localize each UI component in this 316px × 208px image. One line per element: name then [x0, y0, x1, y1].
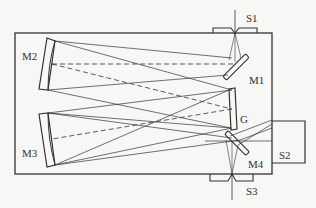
spectrometer-diagram: S1 M1 M2 M3 G M4 S2 S3: [0, 0, 316, 208]
ray-paths: [48, 41, 272, 165]
m1-label: M1: [249, 74, 264, 86]
g-label: G: [240, 113, 248, 125]
m4-label: M4: [248, 158, 264, 170]
s3-label: S3: [246, 185, 258, 197]
s2-label: S2: [279, 149, 291, 161]
m3-label: M3: [22, 147, 38, 159]
optical-axis-dashed: [52, 64, 235, 139]
m3-mirror: [39, 113, 55, 167]
s1-label: S1: [246, 12, 258, 24]
m2-label: M2: [22, 50, 37, 62]
